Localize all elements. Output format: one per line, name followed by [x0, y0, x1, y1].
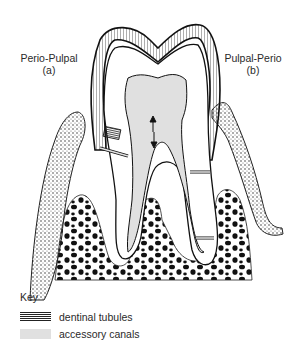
label-perio-pulpal-letter: (a): [18, 64, 80, 76]
label-perio-pulpal-title: Perio-Pulpal: [18, 52, 80, 64]
key-label: dentinal tubules: [59, 311, 133, 323]
key-item-dentinal-tubules: dentinal tubules: [20, 311, 133, 323]
label-pulpal-perio: Pulpal-Perio (b): [218, 52, 288, 76]
accessory-canals-swatch-icon: [20, 329, 51, 339]
label-pulpal-perio-title: Pulpal-Perio: [218, 52, 288, 64]
key-item-accessory-canals: accessory canals: [20, 328, 140, 340]
key-label: accessory canals: [59, 328, 140, 340]
label-pulpal-perio-letter: (b): [218, 64, 288, 76]
alveolar-bone: [55, 190, 252, 280]
label-perio-pulpal: Perio-Pulpal (a): [18, 52, 80, 76]
dentinal-tubules-swatch-icon: [20, 312, 51, 322]
key-title: Key: [20, 291, 38, 303]
